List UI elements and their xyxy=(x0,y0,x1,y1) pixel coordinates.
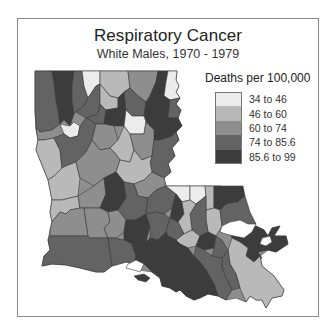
legend-item: 60 to 74 xyxy=(215,121,296,135)
legend-swatch xyxy=(215,92,242,106)
legend-item: 34 to 46 xyxy=(215,92,296,106)
legend-label: 46 to 60 xyxy=(249,108,287,120)
parish-madison xyxy=(168,98,181,118)
legend: 34 to 46 46 to 60 60 to 74 74 to 85.6 85… xyxy=(215,92,296,164)
legend-label: 60 to 74 xyxy=(249,122,287,134)
legend-item: 46 to 60 xyxy=(215,106,296,120)
legend-label: 85.6 to 99 xyxy=(249,151,296,163)
legend-label: 74 to 85.6 xyxy=(249,136,296,148)
parish-st-helena xyxy=(205,186,214,210)
marsh-island xyxy=(134,274,150,282)
legend-title: Deaths per 100,000 xyxy=(205,71,310,85)
parish-cameron xyxy=(42,236,112,272)
legend-item: 74 to 85.6 xyxy=(215,135,296,149)
louisiana-choropleth-map xyxy=(0,0,334,335)
legend-label: 34 to 46 xyxy=(249,93,287,105)
legend-swatch xyxy=(215,106,242,120)
legend-swatch xyxy=(215,150,242,164)
legend-swatch xyxy=(215,121,242,135)
legend-swatch xyxy=(215,135,242,149)
legend-item: 85.6 to 99 xyxy=(215,150,296,164)
